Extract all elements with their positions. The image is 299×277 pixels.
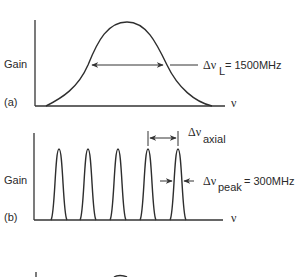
panel-b-peak-subscript: peak — [218, 181, 242, 193]
panel-c-partial — [36, 272, 127, 277]
panel-a-gain-curve — [46, 22, 212, 106]
panel-b-peak-value: = 300MHz — [244, 175, 294, 187]
panel-b-mode-peak-3 — [110, 149, 126, 220]
panel-a-x-label: ν — [231, 96, 237, 110]
panel-b-y-label: Gain — [4, 174, 27, 186]
panel-a-y-label: Gain — [4, 58, 27, 70]
gain-diagram: Gain (a) ν Δν L = 1500MHz Δν axial Δν pe… — [0, 0, 299, 277]
panel-a-tag: (a) — [4, 96, 17, 108]
panel-b-mode-peak-4 — [140, 149, 156, 220]
panel-b-mode-peak-5 — [170, 149, 186, 220]
panel-a-width-value: = 1500MHz — [225, 59, 282, 71]
panel-b-axial-subscript: axial — [203, 133, 226, 145]
panel-b-axial-symbol: Δν — [188, 125, 202, 139]
panel-b-mode-peak-1 — [51, 149, 67, 220]
panel-b-x-label: ν — [231, 211, 237, 225]
panel-b: Δν axial Δν peak = 300MHz Gain (b) ν — [4, 125, 294, 225]
panel-b-mode-peak-2 — [80, 149, 96, 220]
panel-a-width-symbol: Δν — [203, 58, 217, 72]
panel-b-peak-symbol: Δν — [203, 174, 217, 188]
panel-b-tag: (b) — [4, 211, 17, 223]
panel-a: Gain (a) ν Δν L = 1500MHz — [4, 20, 282, 110]
